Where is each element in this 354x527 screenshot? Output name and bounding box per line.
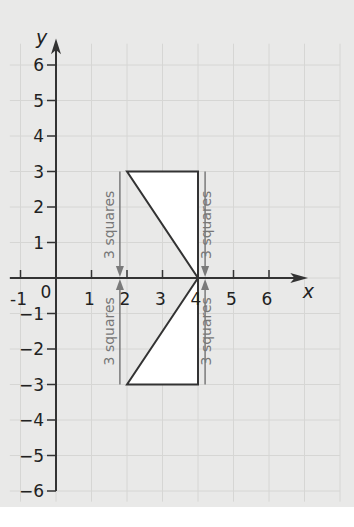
y-tick-label: −5: [19, 446, 44, 466]
x-axis-label: x: [302, 280, 315, 302]
x-tick-label: 6: [262, 289, 273, 309]
axes-layer: [10, 38, 308, 491]
y-tick-label: −4: [19, 410, 44, 430]
y-axis-label: y: [35, 26, 48, 48]
x-tick-label: 0: [41, 282, 52, 302]
measure-left-lower-label: 3 squares: [101, 297, 117, 365]
y-tick-label: −6: [19, 481, 44, 501]
y-tick-label: −1: [19, 304, 44, 324]
x-tick-label: 1: [84, 289, 95, 309]
arrowhead-icon: [201, 279, 209, 290]
y-tick-label: 6: [33, 55, 44, 75]
x-tick-label: 3: [155, 289, 166, 309]
measure-right-upper-label: 3 squares: [198, 191, 214, 259]
y-tick-label: 5: [33, 91, 44, 111]
y-tick-label: 4: [33, 126, 44, 146]
arrowhead-icon: [201, 266, 209, 277]
y-tick-label: 3: [33, 162, 44, 182]
y-tick-label: −2: [19, 339, 44, 359]
y-tick-label: 2: [33, 197, 44, 217]
y-tick-label: 1: [33, 233, 44, 253]
x-tick-label: 2: [120, 289, 131, 309]
coordinate-grid-diagram: 3 squares3 squares3 squares3 squares -10…: [0, 0, 354, 507]
x-tick-label: 5: [226, 289, 237, 309]
x-tick-label: 4: [191, 289, 202, 309]
grid-lines: [10, 44, 340, 502]
plot-svg: 3 squares3 squares3 squares3 squares -10…: [0, 0, 354, 507]
y-tick-label: −3: [19, 375, 44, 395]
arrowhead-icon: [116, 266, 124, 277]
measure-left-upper-label: 3 squares: [101, 191, 117, 259]
